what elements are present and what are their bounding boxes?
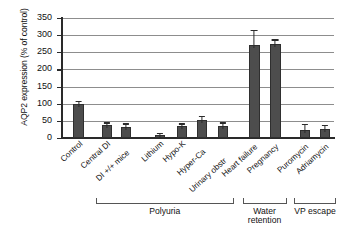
y-tick-label: 250 [22,47,52,56]
y-tick-label: 200 [22,64,52,73]
error-bar-stem [324,126,325,131]
bar-group [320,18,330,138]
y-tick-label: 100 [22,99,52,108]
bar-group [249,18,260,138]
error-bar-cap [302,124,308,125]
y-tick-label: 150 [22,82,52,91]
bar-series [62,18,334,138]
group-bracket [96,198,235,204]
y-tick-label: 350 [22,13,52,22]
bar-group [121,18,131,138]
error-bar-stem [201,117,202,122]
bar-group [177,18,187,138]
chart-figure: AQP2 expression (% of control) 050100150… [0,0,345,237]
error-bar-stem [106,124,107,128]
group-label: VP escape [274,207,345,216]
bar [249,45,260,138]
y-tick-label: 300 [22,30,52,39]
error-bar-cap [123,123,129,124]
error-bar-stem [125,125,126,130]
error-bar-cap [251,30,258,31]
error-bar-cap [322,125,328,126]
group-bracket [243,198,287,204]
error-bar-cap [103,122,109,123]
error-bar-stem [304,125,305,133]
bar-group [300,18,310,138]
error-bar-cap [272,39,279,40]
error-bar-cap [157,133,163,134]
bar-group [270,18,281,138]
x-axis-category-labels: ControlCentral DIDI +/+ miceLithiumHypo-… [0,139,345,197]
y-tick-label: 50 [22,116,52,125]
error-bar-cap [199,116,205,117]
group-bracket [294,198,336,204]
error-bar-cap [220,122,226,123]
error-bar-stem [253,31,254,48]
bar-group [155,18,165,138]
bar-group [218,18,228,138]
bar [73,104,84,138]
error-bar-stem [159,134,160,138]
bar-group [73,18,84,138]
group-brackets: PolyuriaWaterretentionVP escape [0,196,345,237]
bar-group [197,18,207,138]
error-bar-stem [222,124,223,129]
error-bar-stem [181,125,182,129]
error-bar-cap [179,123,185,124]
group-label-line: retention [223,216,307,225]
bar [270,44,281,138]
bar-group [102,18,112,138]
error-bar-stem [274,41,275,47]
error-bar-cap [75,101,82,102]
error-bar-stem [78,102,79,107]
